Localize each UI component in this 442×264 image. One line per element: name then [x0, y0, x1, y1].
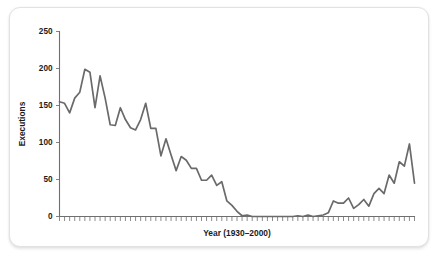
y-tick-label: 200	[39, 64, 53, 73]
executions-line-chart: 050100150200250 Executions Year (1930–20…	[10, 8, 430, 248]
x-axis-ticks	[60, 217, 415, 222]
y-axis-title: Executions	[17, 101, 27, 146]
y-tick-label: 100	[39, 138, 53, 147]
y-tick-label: 150	[39, 101, 53, 110]
y-tick-label: 250	[39, 27, 53, 36]
y-tick-label: 50	[43, 175, 53, 184]
y-axis-tick-labels: 050100150200250	[39, 27, 53, 221]
x-axis-title: Year (1930–2000)	[203, 228, 271, 238]
figure-card: 050100150200250 Executions Year (1930–20…	[9, 7, 429, 247]
y-tick-label: 0	[48, 212, 53, 221]
executions-data-line	[60, 69, 415, 216]
